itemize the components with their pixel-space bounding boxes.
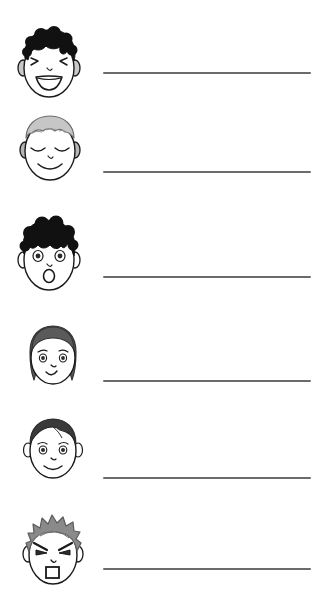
worried-face-icon bbox=[22, 322, 84, 390]
emotion-worksheet bbox=[0, 0, 329, 614]
face-slot-3 bbox=[16, 216, 82, 294]
face-slot-2 bbox=[18, 110, 82, 184]
surprised-face-icon bbox=[16, 216, 82, 294]
smiling-face-icon bbox=[22, 414, 84, 482]
face-slot-6 bbox=[20, 510, 86, 590]
content-face-icon bbox=[18, 110, 82, 184]
angry-face-icon bbox=[20, 510, 86, 590]
answer-line-3[interactable] bbox=[103, 276, 311, 278]
answer-line-4[interactable] bbox=[103, 380, 311, 382]
answer-line-1[interactable] bbox=[103, 72, 311, 74]
answer-line-6[interactable] bbox=[103, 568, 311, 570]
face-slot-1 bbox=[16, 26, 82, 100]
laughing-face-icon bbox=[16, 26, 82, 100]
answer-line-2[interactable] bbox=[103, 171, 311, 173]
face-slot-5 bbox=[22, 414, 84, 482]
face-slot-4 bbox=[22, 322, 84, 390]
answer-line-5[interactable] bbox=[103, 477, 311, 479]
